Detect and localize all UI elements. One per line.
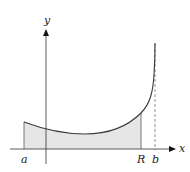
label-R: R [136,153,145,166]
y-axis-arrow-icon [43,29,49,36]
y-axis-label: y [43,14,51,27]
x-axis-label: x [179,142,186,155]
shaded-area [24,113,141,149]
improper-integral-diagram: y x a R b [0,0,190,172]
label-a: a [21,153,28,166]
label-b: b [152,153,159,166]
x-axis-arrow-icon [169,146,176,152]
